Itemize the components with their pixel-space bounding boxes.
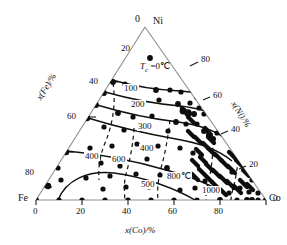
vertex-label-ni: Ni [153,16,163,26]
contour-label-100: 100 [123,84,139,93]
bottom-tick-label-60: 60 [168,207,177,216]
bottom-axis-label: x(Co)/% [125,226,156,235]
contour-label-400: 400 [139,144,155,153]
vertex-label-fe: Fe [18,193,28,203]
left-tick-label-80: 80 [25,168,34,177]
curie-temperature-annotation: Tc =0℃ [140,62,170,74]
contour-label-300: 300 [137,122,153,131]
bottom-tick-label-20: 20 [76,207,85,216]
dashed-contour-label-400: 400 [84,152,100,161]
phase-boundary-dashed-curves [99,83,238,200]
left-tick-label-20: 20 [121,44,130,53]
tc-value: =0℃ [148,61,170,71]
right-tick-label-20: 20 [249,160,258,169]
contour-label-200: 200 [130,100,146,109]
right-tick-label-80: 80 [201,55,210,64]
bottom-tick-label-80: 80 [214,207,223,216]
ternary-phase-diagram: 0 Ni Fe Co 0 20 40 60 80 80 60 40 20 0 2… [0,0,287,245]
contour-label-500: 500 [140,180,156,189]
right-tick-label-40: 40 [231,125,240,134]
apex-zero-tick-label: 0 [135,14,140,24]
left-tick-label-40: 40 [89,77,98,86]
right-tick-label-60: 60 [213,91,222,100]
dashed-contour-label-600: 600 [111,155,127,164]
bottom-tick-label-40: 40 [122,207,131,216]
left-tick-label-60: 60 [67,112,76,121]
dashed-contour-label-1000: 1000 [201,186,221,195]
dashed-contour-label-800: 800℃ [166,172,192,181]
bottom-tick-label-0: 0 [33,207,38,216]
bottom-tick-label-100: 0 [273,194,278,203]
